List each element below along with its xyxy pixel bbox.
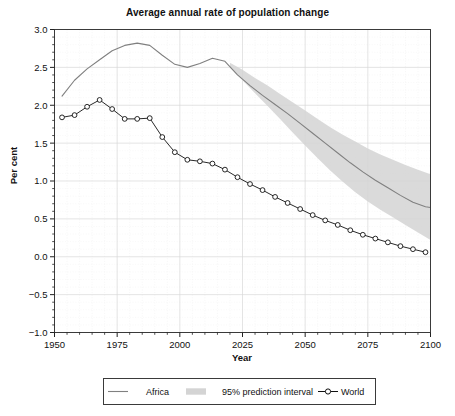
y-tick-label: 0.0 [34, 251, 47, 262]
x-tick-label: 2100 [420, 339, 441, 350]
y-tick-label: 2.5 [34, 62, 47, 73]
legend-label-world: World [341, 387, 364, 397]
y-tick-label: 1.5 [34, 138, 47, 149]
y-tick-label: −1.0 [29, 327, 48, 338]
x-tick-label: 2075 [357, 339, 378, 350]
y-tick-label: −0.5 [29, 289, 48, 300]
legend-swatch-world-marker [325, 389, 330, 394]
x-tick-label: 1950 [44, 339, 65, 350]
legend-label-africa: Africa [146, 387, 169, 397]
y-tick-label: 1.0 [34, 175, 47, 186]
legend-label-prediction-interval: 95% prediction interval [222, 387, 313, 397]
y-tick-label: 3.0 [34, 24, 47, 35]
legend-swatch-prediction-interval [186, 388, 206, 394]
x-tick-label: 1975 [107, 339, 128, 350]
x-tick-label: 2000 [169, 339, 190, 350]
x-tick-label: 2025 [232, 339, 253, 350]
chart-legend: Africa95% prediction intervalWorld [104, 379, 376, 405]
y-tick-label: 2.0 [34, 100, 47, 111]
chart-figure: Average annual rate of population change… [0, 0, 455, 416]
y-tick-label: 0.5 [34, 213, 47, 224]
x-tick-label: 2050 [295, 339, 316, 350]
plot-canvas: 3.02.52.01.51.00.50.0−0.5−1.019501975200… [0, 0, 455, 416]
